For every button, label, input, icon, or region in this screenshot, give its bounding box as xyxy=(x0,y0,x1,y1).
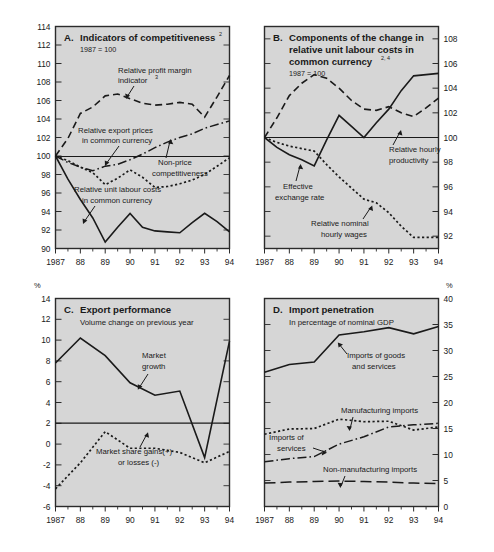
panel-a-indicators-of-competitiveness: 9092949698100102104106108110112114 19878… xyxy=(0,0,247,276)
panel-b-title-superscript: 2, 4 xyxy=(381,55,390,61)
y-tick-label--6: -6 xyxy=(43,502,51,512)
y-tick-label-10: 10 xyxy=(41,335,51,345)
y-tick-label-104: 104 xyxy=(444,83,458,93)
x-tick-label-90: 90 xyxy=(125,257,135,267)
y-tick-label-110: 110 xyxy=(37,59,51,69)
panel-d-label-services-line1: Imports of xyxy=(269,433,304,442)
y-tick-label-4: 4 xyxy=(46,398,51,408)
panel-b-label-exchange-line1: Effective xyxy=(283,182,313,191)
x-tick-label-91: 91 xyxy=(359,515,369,525)
panel-d-subtitle: In percentage of nominal GDP xyxy=(289,318,394,327)
panel-a-base-note: 1987 = 100 xyxy=(80,45,116,54)
y-tick-label--2: -2 xyxy=(43,460,51,470)
x-tick-label-92: 92 xyxy=(384,257,394,267)
y-tick-label-102: 102 xyxy=(444,108,458,118)
y-tick-label-14: 14 xyxy=(41,294,51,304)
panel-a-label-relative-profit-margin-line2: indicator xyxy=(118,76,148,85)
y-tick-label-2: 2 xyxy=(46,418,51,428)
panel-b-label-productivity-line2: productivity xyxy=(389,156,429,165)
y-tick-label-5: 5 xyxy=(444,476,449,486)
y-tick-label-90: 90 xyxy=(41,244,51,254)
y-tick-label-0: 0 xyxy=(444,502,449,512)
y-tick-label-106: 106 xyxy=(37,96,51,106)
x-tick-label-92: 92 xyxy=(175,515,185,525)
x-tick-label-89: 89 xyxy=(310,515,320,525)
x-tick-label-92: 92 xyxy=(175,257,185,267)
y-tick-label-108: 108 xyxy=(444,34,458,44)
y-tick-label-92: 92 xyxy=(41,225,51,235)
y-tick-label-96: 96 xyxy=(41,188,51,198)
y-tick-label-6: 6 xyxy=(46,377,51,387)
y-tick-label-108: 108 xyxy=(37,77,51,87)
x-tick-label-90: 90 xyxy=(334,257,344,267)
panel-d-label-services-line2: services xyxy=(277,444,306,453)
panel-d-x-tick-labels: 198788899091929394 xyxy=(255,507,443,525)
panel-b-label-wages-line2: hourly wages xyxy=(321,230,367,239)
panel-c-label-market-share-line2: or losses (-) xyxy=(118,458,160,467)
y-tick-label-20: 20 xyxy=(444,398,454,408)
panel-a-title: Indicators of competitiveness xyxy=(80,32,215,43)
x-tick-label-88: 88 xyxy=(285,515,295,525)
y-tick-label-106: 106 xyxy=(444,59,458,69)
panel-d-label-goods-services-line1: Imports of goods xyxy=(347,351,405,360)
panel-c-svg: % -6-4-202468101214 198788899091929394 C… xyxy=(0,276,247,552)
panel-c-unit-label: % xyxy=(34,281,41,290)
y-tick-label-35: 35 xyxy=(444,320,454,330)
panel-b-svg: 92949698100102104106108 1987888990919293… xyxy=(247,0,494,276)
x-tick-label-1987: 1987 xyxy=(255,257,274,267)
panel-b-label-exchange-line2: exchange rate xyxy=(275,193,324,202)
y-tick-label-98: 98 xyxy=(41,170,51,180)
x-tick-label-1987: 1987 xyxy=(46,515,65,525)
panel-b-label-wages-line1: Relative nominal xyxy=(311,219,369,228)
panel-a-label-rulc-line2: in common currency xyxy=(82,196,152,205)
y-tick-label-102: 102 xyxy=(37,133,51,143)
x-tick-label-93: 93 xyxy=(200,257,210,267)
panel-a-svg: 9092949698100102104106108110112114 19878… xyxy=(0,0,247,276)
y-tick-label-112: 112 xyxy=(37,40,51,50)
x-tick-label-94: 94 xyxy=(225,257,235,267)
four-panel-chart-figure: 9092949698100102104106108110112114 19878… xyxy=(0,0,494,552)
panel-c-title: Export performance xyxy=(80,304,171,315)
panel-c-label-market-share-line1: Market share gains(+) xyxy=(96,447,172,456)
panel-a-title-superscript: 2 xyxy=(219,31,222,37)
x-tick-label-94: 94 xyxy=(434,257,444,267)
x-tick-label-94: 94 xyxy=(225,515,235,525)
panel-c-export-performance: % -6-4-202468101214 198788899091929394 C… xyxy=(0,276,247,552)
y-tick-label-98: 98 xyxy=(444,157,454,167)
panel-b-x-tick-labels: 198788899091929394 xyxy=(255,249,443,267)
panel-b-title-line2: relative unit labour costs in xyxy=(289,44,414,55)
panel-c-x-tick-labels: 198788899091929394 xyxy=(46,507,234,525)
panel-a-label-relative-export-prices-line2: in common currency xyxy=(82,136,152,145)
y-tick-label--4: -4 xyxy=(43,481,51,491)
panel-d-title: Import penetration xyxy=(289,304,374,315)
x-tick-label-94: 94 xyxy=(434,515,444,525)
panel-b-components-of-change: 92949698100102104106108 1987888990919293… xyxy=(247,0,494,276)
x-tick-label-91: 91 xyxy=(150,515,160,525)
y-tick-label-8: 8 xyxy=(46,356,51,366)
x-tick-label-92: 92 xyxy=(384,515,394,525)
x-tick-label-91: 91 xyxy=(359,257,369,267)
y-tick-label-92: 92 xyxy=(444,231,454,241)
panel-b-letter: B. xyxy=(273,32,283,43)
y-tick-label-30: 30 xyxy=(444,346,454,356)
panel-d-label-goods-services-line2: and services xyxy=(352,362,396,371)
panel-c-subtitle: Volume change on previous year xyxy=(80,318,194,327)
panel-c-label-market-growth-line1: Market xyxy=(142,351,167,360)
panel-d-letter: D. xyxy=(273,304,283,315)
y-tick-label-100: 100 xyxy=(37,151,51,161)
panel-d-plot-background xyxy=(265,299,439,507)
panel-d-svg: % 0510152025303540 198788899091929394 D.… xyxy=(247,276,494,552)
panel-a-label-relative-export-prices-line1: Relative export prices xyxy=(78,126,153,135)
x-tick-label-89: 89 xyxy=(101,515,111,525)
y-tick-label-94: 94 xyxy=(41,207,51,217)
x-tick-label-88: 88 xyxy=(76,257,86,267)
x-tick-label-91: 91 xyxy=(150,257,160,267)
panel-d-label-manufacturing-line1: Manufacturing imports xyxy=(341,406,418,415)
panel-a-x-tick-labels: 198788899091929394 xyxy=(46,249,234,267)
panel-b-label-productivity-line1: Relative hourly xyxy=(389,145,441,154)
panel-b-title-line1: Components of the change in xyxy=(289,32,424,43)
panel-c-label-market-growth-line2: growth xyxy=(142,362,165,371)
y-tick-label-114: 114 xyxy=(37,22,51,32)
panel-a-label-relative-profit-margin-superscript: 3 xyxy=(155,74,158,80)
x-tick-label-88: 88 xyxy=(76,515,86,525)
